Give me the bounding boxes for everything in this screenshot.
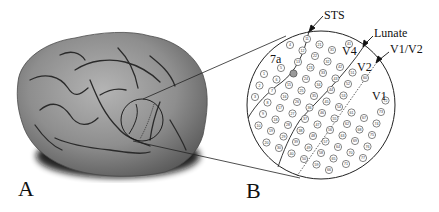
electrode-number: 70 (349, 151, 353, 155)
electrode-number: 44 (329, 88, 333, 92)
electrode-number: 25 (300, 89, 304, 93)
electrode-number: 16 (283, 95, 287, 99)
area-label-v2: V2 (357, 60, 372, 74)
electrode-number: 18 (274, 118, 278, 122)
figure: 1234567891011121315161718192021222324252… (0, 0, 439, 212)
electrode-number: 9 (262, 112, 264, 116)
electrode-number: 49 (307, 146, 311, 150)
electrode-number: 61 (350, 111, 354, 115)
brain-image (17, 32, 207, 178)
electrode-number: 31 (330, 48, 334, 52)
electrode-number: 68 (358, 128, 362, 132)
electrode-number: 10 (257, 124, 261, 128)
electrode-number: 36 (308, 106, 312, 110)
electrode-number: 11 (305, 37, 309, 41)
electrode-number: 67 (362, 116, 366, 120)
panel-label-b: B (246, 180, 261, 202)
annotation-v1v2: V1/V2 (390, 42, 423, 56)
area-label-7a: 7a (270, 52, 282, 66)
electrode-number: 27 (291, 112, 295, 116)
electrode-number: 28 (286, 123, 290, 127)
electrode-number: 24 (304, 77, 308, 81)
electrode-number: 15 (287, 83, 291, 87)
electrode-number: 60 (363, 76, 367, 80)
electrode-number: 48 (311, 134, 315, 138)
electrode-number: 46 (320, 111, 324, 115)
electrode-number: 13 (296, 60, 300, 64)
electrode-number: 62 (345, 122, 349, 126)
electrode-number: 22 (313, 54, 317, 58)
electrode-number: 63 (341, 134, 345, 138)
electrode-number: 64 (336, 145, 340, 149)
electrode-number: 30 (277, 146, 281, 150)
electrode-number: 42 (338, 65, 342, 69)
electrode-number: 39 (294, 140, 298, 144)
electrode-number: 50 (302, 157, 306, 161)
electrode-number: 66 (327, 168, 331, 172)
annotation-sts: STS (324, 8, 345, 22)
electrode-number: 32 (326, 60, 330, 64)
electrode-number: 53 (342, 94, 346, 98)
electrode-number: 29 (282, 135, 286, 139)
electrode (290, 70, 297, 77)
electrode-number: 40 (290, 152, 294, 156)
electrode-number: 33 (321, 71, 325, 75)
electrode-number: 35 (312, 94, 316, 98)
electrode-number: 26 (295, 100, 299, 104)
electrode-number: 51 (351, 71, 355, 75)
electrode-number: 3 (254, 95, 256, 99)
panel-label-a: A (18, 178, 34, 200)
electrode-number: 38 (299, 129, 303, 133)
electrode-number: 4 (289, 43, 291, 47)
electrode-number: 34 (317, 83, 321, 87)
electrode-number: 1 (263, 72, 265, 76)
electrode-number: 69 (353, 139, 357, 143)
electrode-number: 8 (267, 101, 269, 105)
electrode-number: 2 (259, 84, 261, 88)
electrode-number: 21 (318, 43, 322, 47)
electrode-number: 74 (375, 122, 379, 126)
electrode-number: 75 (370, 133, 374, 137)
electrode-number: 47 (316, 123, 320, 127)
electrode-number: 5 (280, 66, 282, 70)
electrode-number: 45 (325, 100, 329, 104)
electrode-number: 57 (324, 140, 328, 144)
electrode-number: 58 (319, 151, 323, 155)
electrode-number: 71 (344, 162, 348, 166)
electrode-number: 37 (303, 117, 307, 121)
electrode-number: 20 (265, 141, 269, 145)
electrode-number: 59 (315, 163, 319, 167)
electrode-number: 55 (333, 117, 337, 121)
electrode-number: 65 (332, 157, 336, 161)
electrode-number: 23 (309, 66, 313, 70)
electrode-number: 19 (269, 129, 273, 133)
electrode-number: 6 (276, 78, 278, 82)
area-label-v1: V1 (372, 89, 387, 103)
area-label-v4: V4 (342, 44, 357, 58)
electrode-number: 17 (278, 106, 282, 110)
electrode-number: 56 (328, 128, 332, 132)
electrode-number: 77 (361, 156, 365, 160)
electrode-number: 54 (337, 105, 341, 109)
annotation-lunate: Lunate (374, 26, 407, 40)
electrode-number: 76 (366, 145, 370, 149)
electrode-number: 73 (379, 110, 383, 114)
electrode-number: 7 (271, 89, 273, 93)
electrode-number: 43 (334, 77, 338, 81)
electrode-number: 12 (301, 49, 305, 53)
electrode-number: 52 (346, 82, 350, 86)
